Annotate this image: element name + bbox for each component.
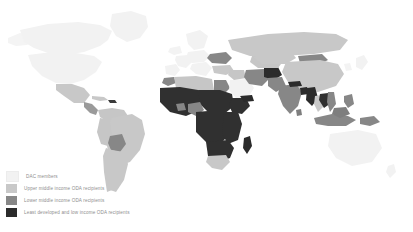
legend-label-least-developed: Least developed and low income ODA recip… bbox=[24, 208, 130, 217]
map-legend: DAC members Upper middle income ODA reci… bbox=[6, 171, 130, 218]
legend-label-lower-middle-income: Lower middle income ODA recipients bbox=[24, 196, 104, 205]
region-nepal bbox=[288, 81, 302, 87]
legend-swatch-lower-middle-income bbox=[6, 196, 17, 205]
legend-item-lower-middle-income: Lower middle income ODA recipients bbox=[6, 195, 130, 206]
legend-item-least-developed: Least developed and low income ODA recip… bbox=[6, 207, 130, 218]
legend-label-upper-middle-income: Upper middle income ODA recipients bbox=[24, 184, 104, 193]
legend-swatch-upper-middle-income bbox=[6, 184, 17, 193]
legend-swatch-dac-members bbox=[6, 171, 19, 182]
legend-swatch-least-developed bbox=[6, 208, 17, 217]
legend-item-upper-middle-income: Upper middle income ODA recipients bbox=[6, 183, 130, 194]
world-map-figure: DAC members Upper middle income ODA reci… bbox=[0, 0, 413, 232]
region-sri-lanka bbox=[296, 109, 302, 116]
legend-item-dac-members: DAC members bbox=[6, 171, 130, 182]
legend-label-dac-members: DAC members bbox=[26, 172, 58, 181]
